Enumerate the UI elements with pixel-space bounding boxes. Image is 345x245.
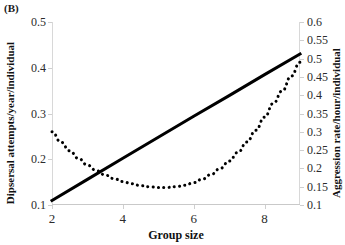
y-axis-right-tick-label: 0.1 (307, 198, 322, 213)
plot-area: 0.10.20.30.40.5 0.10.150.20.250.30.350.4… (52, 22, 300, 205)
y-axis-right-tick (300, 187, 304, 188)
y-axis-right-tick (300, 59, 304, 60)
y-axis-right-tick-label: 0.3 (307, 124, 322, 139)
y-axis-right-tick-label: 0.6 (307, 15, 322, 30)
x-axis-tick-label: 8 (261, 211, 268, 227)
y-axis-right-tick-label: 0.45 (307, 69, 328, 84)
y-axis-right-tick-label: 0.55 (307, 33, 328, 48)
y-axis-right-tick-label: 0.5 (307, 51, 322, 66)
y-axis-right-tick-label: 0.15 (307, 179, 328, 194)
y-axis-left-tick-label: 0.4 (31, 60, 46, 75)
x-axis-tick-label: 4 (120, 211, 127, 227)
y-axis-right-tick (300, 95, 304, 96)
x-axis-tick-label: 2 (49, 211, 56, 227)
x-axis-tick-label: 6 (190, 211, 197, 227)
y-axis-left-tick-label: 0.2 (31, 152, 46, 167)
x-axis-tick (123, 205, 124, 209)
y-axis-right-tick (300, 205, 304, 206)
series-solid (52, 54, 300, 200)
y-axis-left-tick-label: 0.1 (31, 198, 46, 213)
x-axis-tick (52, 205, 53, 209)
y-axis-right-tick-label: 0.4 (307, 88, 322, 103)
panel-label: (B) (4, 2, 19, 14)
y-axis-right-title: Aggression rate/hour/individual (330, 48, 342, 198)
x-axis-tick (194, 205, 195, 209)
series-dotted (52, 62, 300, 187)
y-axis-right-tick (300, 150, 304, 151)
y-axis-right-tick-label: 0.35 (307, 106, 328, 121)
x-axis-title: Group size (148, 228, 203, 243)
y-axis-right-tick (300, 40, 304, 41)
y-axis-right-tick (300, 77, 304, 78)
y-axis-left-title: Dipsersal attempts/year/individual (4, 41, 16, 203)
y-axis-right-tick (300, 22, 304, 23)
series-canvas (52, 22, 300, 205)
y-axis-left-tick-label: 0.3 (31, 106, 46, 121)
y-axis-right-tick-label: 0.2 (307, 161, 322, 176)
y-axis-right-tick-label: 0.25 (307, 143, 328, 158)
x-axis-tick (265, 205, 266, 209)
figure-panel-b: (B) Dipsersal attempts/year/individual A… (0, 0, 345, 245)
y-axis-right-tick (300, 168, 304, 169)
y-axis-left-tick-label: 0.5 (31, 15, 46, 30)
y-axis-right-tick (300, 132, 304, 133)
y-axis-right-tick (300, 114, 304, 115)
